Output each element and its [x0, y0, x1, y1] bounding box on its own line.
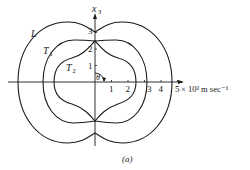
- x-tick-label-4: 4: [159, 84, 164, 94]
- figure-caption: (a): [122, 154, 133, 164]
- vertical-axis-label-subscript: 3: [98, 8, 101, 15]
- y-tick-label-1: 1: [88, 61, 93, 71]
- angle-label: θ: [96, 73, 100, 82]
- x-tick-label-5: 5: [175, 84, 180, 94]
- curve-label-T1-subscript: 1: [50, 50, 53, 57]
- x-axis-unit: × 10³ m sec⁻¹: [181, 84, 229, 94]
- angle-arrow-icon: [102, 77, 106, 82]
- curve-label-T2-subscript: 2: [73, 67, 76, 74]
- vertical-axis-label: x: [91, 3, 97, 14]
- x-tick-label-3: 3: [147, 84, 152, 94]
- x-tick-label-2: 2: [126, 84, 131, 94]
- x-tick-label-1: 1: [109, 84, 114, 94]
- curve-label-L: L: [30, 28, 37, 39]
- slowness-velocity-diagram: 1 2 3 4 5 × 10³ m sec⁻¹ 1 2 3 x 3 θ L T …: [0, 0, 250, 170]
